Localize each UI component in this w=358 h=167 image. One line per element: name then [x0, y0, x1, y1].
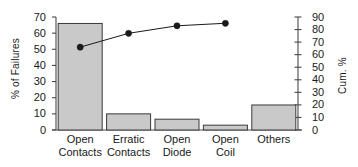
bar	[107, 114, 151, 130]
bar	[58, 23, 102, 130]
pareto-chart: % of Failures Cum. % 010203040506070 010…	[0, 0, 358, 167]
data-point	[222, 20, 228, 26]
bar	[252, 105, 296, 130]
data-point	[174, 23, 180, 29]
bar	[155, 119, 199, 130]
data-point	[126, 30, 132, 36]
x-axis-category-labels: OpenContactsErraticContactsOpenDiodeOpen…	[0, 133, 358, 167]
x-axis-category-label: Others	[234, 133, 314, 146]
bar	[203, 125, 247, 130]
data-point	[77, 44, 83, 50]
bar-series	[58, 23, 296, 130]
